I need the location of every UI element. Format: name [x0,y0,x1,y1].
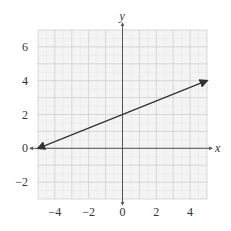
y-tick-label: −2 [15,175,28,189]
y-tick-label: 4 [22,74,28,88]
y-tick-label: 0 [22,141,28,155]
x-tick-label: −4 [49,205,62,219]
y-tick-label: 2 [22,108,28,122]
x-axis-label: x [214,141,221,155]
x-tick-label: 2 [153,205,159,219]
y-tick-label: 6 [22,40,28,54]
x-tick-label: 0 [120,205,126,219]
y-axis-label: y [119,9,126,23]
line-chart: xy −4−2024−20246 [0,0,231,231]
x-tick-label: −2 [82,205,95,219]
x-tick-label: 4 [187,205,193,219]
